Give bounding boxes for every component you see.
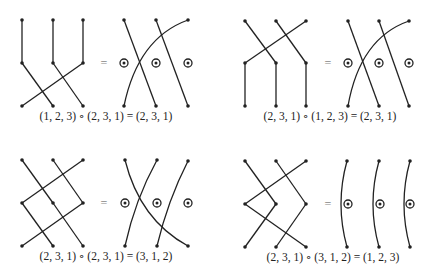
equals-sign-1: = <box>101 56 108 71</box>
panel-4-caption: (2, 3, 1) ∘ (3, 1, 2) = (1, 2, 3) <box>267 250 400 264</box>
endpoint-dots <box>20 18 412 249</box>
equals-sign-2: = <box>325 56 332 71</box>
panel-1-caption: (1, 2, 3) ∘ (2, 3, 1) = (2, 3, 1) <box>40 109 173 123</box>
equals-sign-4: = <box>325 197 332 212</box>
panel-2-caption: (2, 3, 1) ∘ (1, 2, 3) = (2, 3, 1) <box>264 109 397 123</box>
equals-sign-3: = <box>101 196 108 211</box>
permutation-diagrams <box>0 0 431 274</box>
panel-3-caption: (2, 3, 1) ∘ (2, 3, 1) = (3, 1, 2) <box>40 249 173 263</box>
